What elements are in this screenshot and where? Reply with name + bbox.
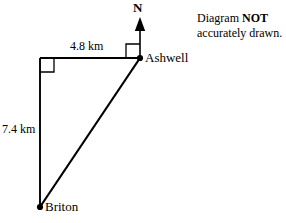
- bearings-diagram: N 4.8 km 7.4 km Ashwell Briton Diagram N…: [0, 0, 286, 223]
- note-line2: accurately drawn.: [197, 26, 282, 40]
- vertex-dot-ashwell: [137, 55, 143, 61]
- point-label-briton: Briton: [45, 200, 78, 215]
- north-label: N: [133, 1, 143, 16]
- vertex-dot-briton: [37, 204, 43, 210]
- north-arrow-head: [135, 17, 145, 31]
- side-label-4-8km: 4.8 km: [70, 40, 103, 53]
- corner-right-angle-icon: [40, 58, 54, 72]
- side-hypotenuse: [40, 58, 140, 207]
- not-accurately-drawn-note: Diagram NOTaccurately drawn.: [197, 11, 283, 42]
- point-label-ashwell: Ashwell: [145, 51, 188, 66]
- note-emphasis: NOT: [242, 11, 268, 25]
- side-label-7-4km: 7.4 km: [2, 123, 35, 136]
- note-prefix: Diagram: [197, 11, 242, 25]
